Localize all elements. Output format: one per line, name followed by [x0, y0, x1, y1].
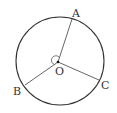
radius-oa	[58, 19, 72, 62]
radius-ob	[25, 62, 58, 85]
circle	[16, 17, 104, 105]
label-o: O	[55, 65, 64, 78]
center-dot	[57, 61, 60, 64]
circle-diagram: A B C O	[0, 0, 117, 113]
radius-oc	[58, 62, 99, 80]
label-b: B	[13, 85, 21, 98]
label-c: C	[101, 79, 109, 92]
label-a: A	[71, 7, 81, 20]
